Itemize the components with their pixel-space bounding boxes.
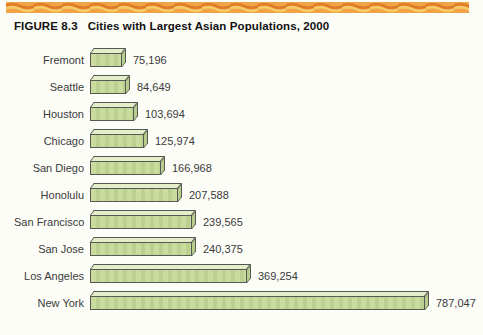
bar-side-face — [134, 102, 138, 121]
bar-3d — [90, 296, 425, 310]
value-label: 787,047 — [436, 297, 476, 309]
bar-3d — [90, 107, 134, 121]
bar-3d — [90, 134, 144, 148]
bar-side-face — [122, 48, 126, 67]
bar-3d — [90, 188, 178, 202]
bar-front-face — [90, 269, 247, 283]
bar-side-face — [425, 291, 429, 310]
bar-front-face — [90, 134, 144, 148]
bar-row: Honolulu 207,588 — [0, 181, 483, 208]
bar-front-face — [90, 242, 192, 256]
bar-row: San Diego 166,968 — [0, 154, 483, 181]
bar-side-face — [192, 237, 196, 256]
category-label: Los Angeles — [14, 270, 90, 282]
figure-title: Cities with Largest Asian Populations, 2… — [88, 20, 330, 32]
value-label: 240,375 — [203, 243, 243, 255]
bar-row: San Francisco 239,565 — [0, 208, 483, 235]
bar-side-face — [144, 129, 148, 148]
category-label: Houston — [14, 108, 90, 120]
value-label: 103,694 — [145, 108, 185, 120]
bar-front-face — [90, 188, 178, 202]
bar-side-face — [161, 156, 165, 175]
bar-3d — [90, 161, 161, 175]
bar-side-face — [126, 75, 130, 94]
category-label: New York — [14, 297, 90, 309]
category-label: Fremont — [14, 54, 90, 66]
category-label: San Jose — [14, 243, 90, 255]
figure-title-row: FIGURE 8.3 Cities with Largest Asian Pop… — [14, 20, 483, 32]
category-label: Chicago — [14, 135, 90, 147]
bar-3d — [90, 53, 122, 67]
bar-row: Fremont 75,196 — [0, 46, 483, 73]
category-label: Honolulu — [14, 189, 90, 201]
bar-chart: Fremont 75,196 Seattle 84,649 Houston — [0, 46, 483, 316]
decorative-wave-band — [6, 2, 469, 13]
bar-row: San Jose 240,375 — [0, 235, 483, 262]
bar-row: Chicago 125,974 — [0, 127, 483, 154]
bar-row: Seattle 84,649 — [0, 73, 483, 100]
bar-front-face — [90, 53, 122, 67]
bar-front-face — [90, 107, 134, 121]
value-label: 84,649 — [137, 81, 171, 93]
value-label: 369,254 — [258, 270, 298, 282]
value-label: 207,588 — [189, 189, 229, 201]
value-label: 166,968 — [172, 162, 212, 174]
value-label: 125,974 — [155, 135, 195, 147]
bar-front-face — [90, 215, 192, 229]
category-label: San Diego — [14, 162, 90, 174]
bar-row: Houston 103,694 — [0, 100, 483, 127]
figure-8-3: FIGURE 8.3 Cities with Largest Asian Pop… — [0, 2, 483, 335]
category-label: Seattle — [14, 81, 90, 93]
bar-front-face — [90, 161, 161, 175]
bar-row: Los Angeles 369,254 — [0, 262, 483, 289]
bar-front-face — [90, 296, 425, 310]
bar-side-face — [178, 183, 182, 202]
bar-side-face — [247, 264, 251, 283]
bar-row: New York 787,047 — [0, 289, 483, 316]
value-label: 239,565 — [203, 216, 243, 228]
value-label: 75,196 — [133, 54, 167, 66]
bar-3d — [90, 269, 247, 283]
bar-3d — [90, 242, 192, 256]
category-label: San Francisco — [14, 216, 90, 228]
bar-side-face — [192, 210, 196, 229]
bar-front-face — [90, 80, 126, 94]
bar-3d — [90, 215, 192, 229]
figure-number: FIGURE 8.3 — [14, 20, 78, 32]
bar-3d — [90, 80, 126, 94]
